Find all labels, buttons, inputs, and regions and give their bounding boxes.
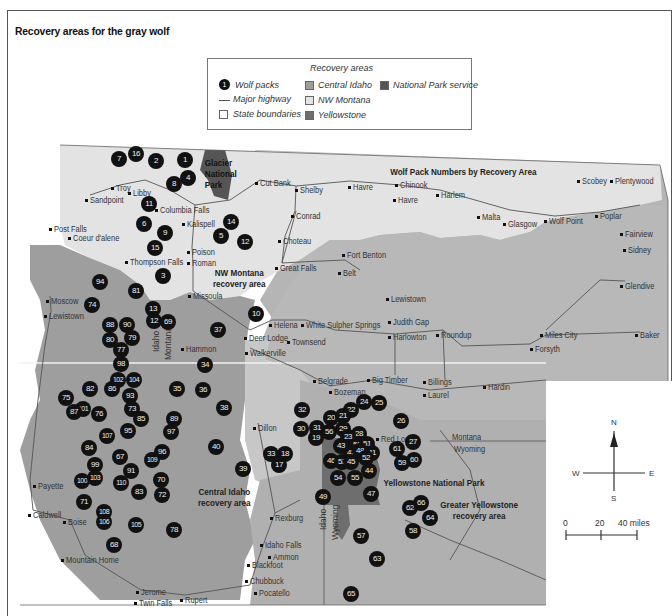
wolf-pack-marker: 72	[154, 487, 170, 503]
wolf-pack-marker: 105	[128, 517, 144, 533]
city-marker-icon	[278, 240, 281, 243]
wolf-pack-marker: 40	[208, 439, 224, 455]
city-label: Harlowton	[393, 332, 427, 342]
city-label: Forsyth	[535, 344, 560, 354]
greater-yellowstone-area-label: Greater Yellowstone recovery area	[440, 500, 518, 522]
city-marker-icon	[367, 379, 370, 382]
legend-highway-icon	[219, 100, 230, 101]
wolf-pack-marker: 110	[113, 475, 129, 491]
city-label: Pocatello	[259, 588, 290, 598]
city-label: Chubbuck	[250, 576, 284, 586]
wolf-pack-marker: 47	[363, 486, 379, 502]
wolf-pack-marker: 74	[84, 297, 100, 313]
wolf-pack-marker: 71	[76, 494, 92, 510]
city-marker-icon	[620, 233, 623, 236]
city-marker-icon	[388, 336, 391, 339]
wolf-pack-marker: 34	[197, 357, 213, 373]
wolf-pack-marker: 14	[223, 214, 239, 230]
city-marker-icon	[260, 544, 263, 547]
city-label: Deer Lodge	[249, 333, 288, 343]
city-marker-icon	[436, 194, 439, 197]
city-marker-icon	[342, 254, 345, 257]
city-label: Wolf Point	[549, 216, 583, 226]
wolf-pack-marker: 81	[128, 283, 144, 299]
city-marker-icon	[44, 315, 47, 318]
city-label: Sandpoint	[90, 195, 124, 205]
state-label-wyoming-east: Wyoming	[454, 444, 485, 454]
city-label: Fort Benton	[347, 250, 386, 260]
city-marker-icon	[623, 249, 626, 252]
city-marker-icon	[388, 321, 391, 324]
city-marker-icon	[544, 220, 547, 223]
wolf-pack-marker: 19	[308, 430, 324, 446]
wolf-pack-marker: 86	[104, 381, 120, 397]
city-marker-icon	[595, 215, 598, 218]
city-label: Baker	[640, 330, 660, 340]
wolf-pack-marker: 3	[155, 268, 171, 284]
legend-major-highway: Major highway	[233, 94, 291, 104]
yellowstone-np-label: Yellowstone National Park	[384, 478, 485, 489]
city-marker-icon	[63, 521, 66, 524]
city-label: Laurel	[428, 390, 449, 400]
legend-yellowstone: Yellowstone	[318, 110, 366, 120]
city-marker-icon	[291, 215, 294, 218]
city-marker-icon	[125, 261, 128, 264]
city-marker-icon	[423, 381, 426, 384]
wolf-pack-marker: 69	[160, 314, 176, 330]
city-marker-icon	[181, 348, 184, 351]
city-label: Hammon	[186, 344, 216, 354]
city-marker-icon	[503, 223, 506, 226]
city-label: Malta	[482, 212, 500, 222]
wolf-pack-marker: 85	[133, 411, 149, 427]
wolf-pack-marker: 9	[157, 225, 173, 241]
nw-montana-area-label: NW Montana recovery area	[213, 268, 266, 290]
wolf-pack-marker: 17	[271, 457, 287, 473]
city-label: Caldwell	[33, 510, 61, 520]
wolf-pack-marker: 2	[148, 153, 164, 169]
city-label: Coeur d'alene	[73, 233, 119, 243]
city-marker-icon	[610, 180, 613, 183]
city-label: Thompson Falls	[130, 257, 183, 267]
city-label: Twin Falls	[139, 598, 172, 608]
city-label: Walkerville	[250, 348, 286, 358]
city-label: Helena	[274, 320, 298, 330]
wolf-pack-marker: 88	[102, 317, 118, 333]
city-marker-icon	[33, 485, 36, 488]
city-marker-icon	[393, 199, 396, 202]
legend: Recovery areas 1 Wolf packs Major highwa…	[207, 58, 472, 130]
glacier-np-label: Glacier National Park	[205, 158, 237, 191]
city-marker-icon	[245, 580, 248, 583]
compass-s: S	[611, 494, 616, 503]
city-label: Shelby	[300, 185, 323, 195]
city-marker-icon	[395, 184, 398, 187]
wolf-pack-marker: 106	[96, 514, 112, 530]
city-marker-icon	[313, 380, 316, 383]
city-marker-icon	[245, 352, 248, 355]
wolf-pack-marker: 32	[294, 402, 310, 418]
city-label: Dillon	[258, 423, 277, 433]
city-label: Rupert	[185, 595, 207, 605]
city-label: Lewistown	[49, 311, 84, 321]
city-marker-icon	[244, 337, 247, 340]
city-marker-icon	[247, 564, 250, 567]
city-label: Cut Bank	[260, 178, 291, 188]
city-marker-icon	[348, 186, 351, 189]
wolf-pack-marker: 10	[248, 306, 264, 322]
city-marker-icon	[423, 394, 426, 397]
city-marker-icon	[540, 334, 543, 337]
city-marker-icon	[483, 386, 486, 389]
wolf-pack-marker: 82	[82, 381, 98, 397]
city-marker-icon	[268, 556, 271, 559]
wolf-pack-marker: 16	[128, 146, 144, 162]
wolf-pack-marker: 76	[91, 406, 107, 422]
city-marker-icon	[255, 182, 258, 185]
city-marker-icon	[436, 334, 439, 337]
wolf-pack-marker: 103	[87, 470, 103, 486]
city-marker-icon	[85, 199, 88, 202]
wolf-pack-marker: 63	[369, 551, 385, 567]
city-label: Blackfoot	[252, 560, 283, 570]
legend-yellowstone-swatch	[305, 111, 314, 120]
city-marker-icon	[46, 300, 49, 303]
city-marker-icon	[187, 262, 190, 265]
city-marker-icon	[111, 187, 114, 190]
